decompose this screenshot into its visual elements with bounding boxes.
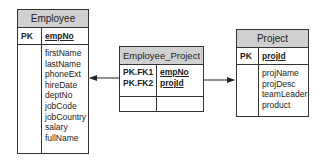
project-pk-field: projId (259, 48, 308, 64)
entity-employee[interactable]: Employee PK empNo firstName lastName pho… (17, 9, 89, 154)
employee-pk-row: PK empNo (18, 28, 88, 45)
employee-attr: jobCode (45, 101, 88, 112)
employee-project-key-field: empNo (160, 67, 203, 78)
employee-pk-label: PK (18, 28, 42, 44)
employee-pk-field: empNo (42, 28, 88, 44)
entity-employee-project[interactable]: Employee_Project PK.FK1 PK.FK2 empNo pro… (119, 46, 204, 112)
employee-attr: hireDate (45, 80, 88, 91)
employee-project-key-label: PK.FK1 (123, 67, 156, 78)
employee-project-key-label: PK.FK2 (123, 78, 156, 89)
entity-employee-title: Employee (18, 10, 88, 28)
project-attr: projDesc (262, 79, 308, 90)
project-pk-label: PK (237, 48, 259, 64)
employee-attr: jobCountry (45, 112, 88, 123)
entity-employee-project-title: Employee_Project (120, 47, 203, 65)
employee-attr: fullName (45, 133, 88, 144)
project-attributes: projName projDesc teamLeader product (237, 65, 308, 116)
employee-attr: phoneExt (45, 69, 88, 80)
project-attr: projName (262, 68, 308, 79)
entity-project[interactable]: Project PK projId projName projDesc team… (236, 29, 309, 117)
entity-project-title: Project (237, 30, 308, 48)
project-attr: teamLeader (262, 89, 308, 100)
employee-attr: firstName (45, 48, 88, 59)
employee-key-col (18, 45, 42, 153)
project-attr: product (262, 100, 308, 111)
employee-attr: salary (45, 122, 88, 133)
employee-project-key-field: projId (160, 78, 203, 89)
employee-attributes: firstName lastName phoneExt hireDate dep… (18, 45, 88, 153)
project-pk-row: PK projId (237, 48, 308, 65)
employee-project-attributes (120, 97, 203, 111)
employee-project-keys-row: PK.FK1 PK.FK2 empNo projId (120, 65, 203, 97)
employee-attr: deptNo (45, 90, 88, 101)
employee-attr: lastName (45, 59, 88, 70)
